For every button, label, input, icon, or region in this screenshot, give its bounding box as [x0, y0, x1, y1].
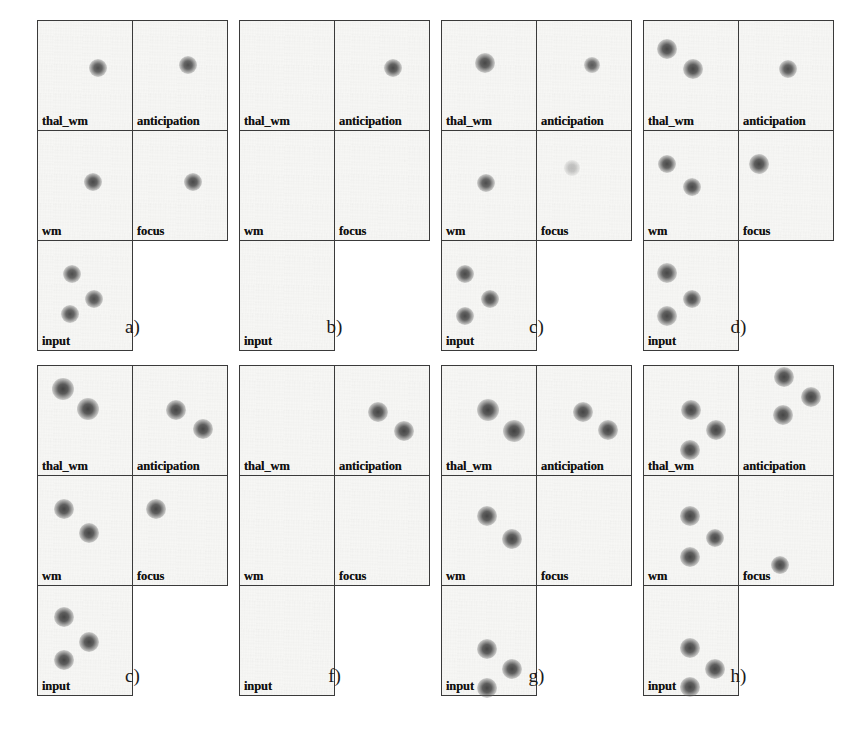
panel-f: thal_wmanticipationwmfocusinputf)	[239, 365, 430, 710]
module-label-thal_wm: thal_wm	[648, 460, 694, 473]
activation-blob	[85, 290, 103, 308]
panel-d: thal_wmanticipationwmfocusinputd)	[643, 20, 834, 365]
activation-blob	[477, 678, 497, 698]
module-cell-thal_wm: thal_wm	[239, 20, 335, 131]
module-label-thal_wm: thal_wm	[648, 115, 694, 128]
activation-blob	[384, 59, 402, 77]
activation-blob	[598, 420, 618, 440]
module-cell-focus: focus	[536, 130, 632, 241]
activation-blob	[584, 57, 600, 73]
module-label-focus: focus	[743, 225, 770, 238]
activation-blob	[477, 506, 497, 526]
module-label-input: input	[244, 680, 272, 693]
panel-row: thal_wmanticipationwmfocusinputc)thal_wm…	[0, 365, 861, 710]
activation-blob	[680, 638, 700, 658]
activation-blob	[477, 174, 495, 192]
activation-blob	[657, 306, 677, 326]
module-cell-wm: wm	[643, 130, 739, 241]
activation-blob	[79, 523, 99, 543]
activation-blob	[193, 419, 213, 439]
module-cell-thal_wm: thal_wm	[37, 20, 133, 131]
module-cell-wm: wm	[239, 130, 335, 241]
module-label-wm: wm	[244, 225, 263, 238]
activation-blob	[61, 305, 79, 323]
activation-blob	[779, 60, 797, 78]
activation-blob	[368, 402, 388, 422]
activation-blob	[683, 290, 701, 308]
module-label-focus: focus	[137, 570, 164, 583]
activation-blob	[477, 639, 497, 659]
panel-b: thal_wmanticipationwmfocusinputb)	[239, 20, 430, 365]
activation-blob	[774, 367, 794, 387]
activation-blob	[657, 263, 677, 283]
module-cell-focus: focus	[132, 475, 228, 586]
module-cell-wm: wm	[37, 130, 133, 241]
module-label-anticipation: anticipation	[339, 115, 402, 128]
module-cell-thal_wm: thal_wm	[37, 365, 133, 476]
activation-blob	[481, 290, 499, 308]
panel-h: thal_wmanticipationwmfocusinputh)	[643, 365, 834, 710]
activation-blob	[749, 154, 769, 174]
module-label-wm: wm	[648, 225, 667, 238]
activation-blob	[683, 178, 701, 196]
activation-blob	[54, 499, 74, 519]
activation-blob	[63, 265, 81, 283]
activation-blob	[166, 400, 186, 420]
activation-blob	[84, 173, 102, 191]
activation-blob	[146, 499, 166, 519]
module-cell-anticipation: anticipation	[738, 365, 834, 476]
module-cell-anticipation: anticipation	[334, 365, 430, 476]
module-cell-wm: wm	[239, 475, 335, 586]
module-label-input: input	[42, 680, 70, 693]
module-cell-wm: wm	[441, 130, 537, 241]
activation-blob	[680, 506, 700, 526]
panel-c: thal_wmanticipationwmfocusinputc)	[37, 365, 228, 710]
module-grid: thal_wmanticipationwmfocusinput	[37, 365, 228, 655]
activation-blob	[503, 420, 525, 442]
module-label-wm: wm	[446, 570, 465, 583]
module-label-thal_wm: thal_wm	[244, 460, 290, 473]
module-label-wm: wm	[446, 225, 465, 238]
module-grid: thal_wmanticipationwmfocusinput	[37, 20, 228, 310]
activation-blob	[573, 402, 593, 422]
activation-blob	[475, 53, 495, 73]
module-label-anticipation: anticipation	[137, 115, 200, 128]
module-label-input: input	[244, 335, 272, 348]
activation-blob	[179, 56, 197, 74]
module-label-focus: focus	[339, 225, 366, 238]
activation-blob	[89, 59, 107, 77]
activation-blob	[681, 400, 701, 420]
module-cell-wm: wm	[441, 475, 537, 586]
activation-blob	[706, 529, 724, 547]
module-label-wm: wm	[42, 570, 61, 583]
module-label-input: input	[648, 680, 676, 693]
module-cell-focus: focus	[334, 475, 430, 586]
figure-container: thal_wmanticipationwmfocusinputa)thal_wm…	[0, 0, 861, 732]
module-label-thal_wm: thal_wm	[446, 460, 492, 473]
activation-blob	[680, 547, 700, 567]
module-label-wm: wm	[648, 570, 667, 583]
module-grid: thal_wmanticipationwmfocusinput	[441, 365, 632, 655]
module-label-wm: wm	[42, 225, 61, 238]
module-cell-focus: focus	[738, 130, 834, 241]
panel-c: thal_wmanticipationwmfocusinputc)	[441, 20, 632, 365]
module-cell-focus: focus	[536, 475, 632, 586]
module-label-focus: focus	[541, 570, 568, 583]
activation-blob	[705, 659, 725, 679]
activation-blob	[79, 632, 99, 652]
module-label-input: input	[446, 680, 474, 693]
activation-blob	[184, 173, 202, 191]
activation-blob	[456, 265, 474, 283]
activation-blob	[683, 59, 703, 79]
activation-blob	[658, 155, 676, 173]
module-label-input: input	[42, 335, 70, 348]
module-cell-focus: focus	[132, 130, 228, 241]
activation-blob	[680, 440, 700, 460]
module-grid: thal_wmanticipationwmfocusinput	[643, 20, 834, 310]
module-label-anticipation: anticipation	[137, 460, 200, 473]
activation-blob	[773, 405, 793, 425]
module-label-anticipation: anticipation	[541, 115, 604, 128]
activation-blob	[680, 677, 700, 697]
module-cell-focus: focus	[334, 130, 430, 241]
module-label-wm: wm	[244, 570, 263, 583]
